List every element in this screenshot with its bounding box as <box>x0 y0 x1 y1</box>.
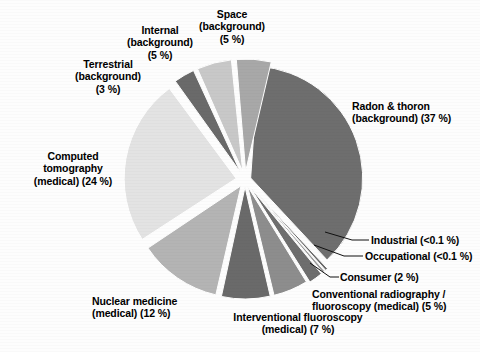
slice-label-consumer: Consumer (2 %) <box>340 271 444 283</box>
slice-label-occupational: Occupational (<0.1 %) <box>365 250 479 262</box>
slice-label-conventional-radiography: Conventional radiography / fluoroscopy (… <box>312 288 480 313</box>
slice-label-industrial: Industrial (<0.1 %) <box>371 234 479 246</box>
pie-chart-figure: Space (background) (5 %) Internal (backg… <box>0 0 480 352</box>
slice-label-radon-thoron: Radon & thoron (background) (37 %) <box>352 100 478 125</box>
slice-label-terrestrial: Terrestrial (background) (3 %) <box>56 58 160 95</box>
slice-label-internal: Internal (background) (5 %) <box>112 24 208 61</box>
slice-label-interventional-fluoroscopy: Interventional fluoroscopy (medical) (7 … <box>222 311 374 336</box>
slice-label-nuclear-medicine: Nuclear medicine (medical) (12 %) <box>92 295 220 320</box>
slice-label-computed-tomography: Computed tomography (medical) (24 %) <box>18 150 128 187</box>
